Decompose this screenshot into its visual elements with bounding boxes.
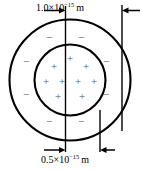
bottom-left-arrow: [44, 147, 66, 153]
negative-charge-symbol: −: [46, 115, 52, 127]
positive-charge-symbol: +: [51, 60, 57, 72]
top-right-arrow: [122, 8, 140, 14]
positive-charge-group: + + + + + + + + +: [43, 52, 97, 102]
negative-charge-symbol: −: [46, 31, 52, 43]
inner-diameter-unit: m: [81, 154, 89, 165]
outer-diameter-unit: m: [76, 2, 84, 13]
positive-charge-symbol: +: [91, 75, 97, 87]
inner-diameter-mantissa: 0.5×10: [41, 154, 69, 165]
negative-charge-symbol: −: [103, 55, 109, 67]
positive-charge-symbol: +: [43, 75, 49, 87]
positive-charge-symbol: +: [83, 60, 89, 72]
inner-diameter-exponent: −15: [69, 153, 79, 160]
negative-charge-symbol: −: [78, 115, 84, 127]
charge-distribution-figure: + + + + + + + + + − − − − − − − − 1.0×10…: [0, 0, 141, 171]
negative-charge-symbol: −: [23, 88, 29, 100]
outer-diameter-exponent: −15: [64, 1, 74, 8]
positive-charge-symbol: +: [67, 52, 73, 64]
positive-charge-symbol: +: [79, 90, 85, 102]
outer-diameter-mantissa: 1.0×10: [36, 2, 64, 13]
bottom-right-arrow: [100, 147, 115, 153]
negative-charge-symbol: −: [23, 55, 29, 67]
diagram-canvas: + + + + + + + + + − − − − − − − −: [0, 0, 141, 171]
negative-charge-symbol: −: [78, 31, 84, 43]
outer-diameter-label: 1.0×10−15m: [36, 3, 84, 13]
positive-charge-symbol: +: [59, 75, 65, 87]
positive-charge-symbol: +: [55, 90, 61, 102]
outer-circle: [10, 20, 131, 141]
inner-diameter-label: 0.5×10−15m: [41, 155, 89, 165]
negative-charge-symbol: −: [103, 88, 109, 100]
positive-charge-symbol: +: [75, 75, 81, 87]
